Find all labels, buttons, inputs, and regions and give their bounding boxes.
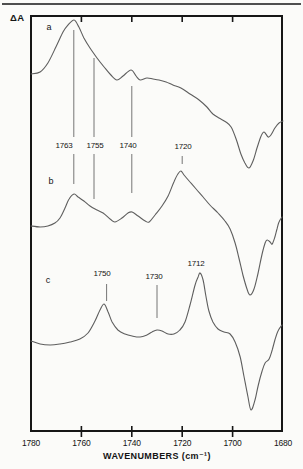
- peak-label-1755: 1755: [87, 141, 104, 150]
- x-tick-label-1700: 1700: [224, 438, 242, 448]
- peak-label-1720: 1720: [175, 142, 192, 151]
- x-tick-label-1780: 1780: [22, 438, 40, 448]
- x-tick-label-1680: 1680: [274, 438, 292, 448]
- spectra-figure: ΔA 1763175517401720175017301712abc178017…: [0, 0, 303, 469]
- panel-letter-b: b: [48, 176, 53, 186]
- panel-letter-a: a: [46, 22, 51, 32]
- peak-label-1763: 1763: [56, 141, 73, 150]
- peak-label-1740: 1740: [120, 141, 137, 150]
- peak-label-1750: 1750: [94, 269, 111, 278]
- peak-label-1730: 1730: [146, 272, 163, 281]
- x-tick-label-1740: 1740: [123, 438, 141, 448]
- peak-label-1712: 1712: [188, 259, 205, 268]
- x-tick-label-1760: 1760: [72, 438, 90, 448]
- x-tick-label-1720: 1720: [173, 438, 191, 448]
- ir-difference-spectra-plot: [0, 0, 303, 469]
- x-axis-title: WAVENUMBERS (cm⁻¹): [103, 451, 211, 461]
- panel-letter-c: c: [46, 275, 51, 285]
